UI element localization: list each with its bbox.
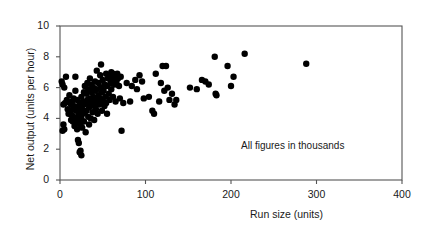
data-point <box>241 51 247 57</box>
data-point <box>116 83 122 89</box>
data-point <box>146 94 152 100</box>
data-point <box>166 97 172 103</box>
data-point <box>153 71 159 77</box>
data-point <box>194 86 200 92</box>
data-point <box>165 84 171 90</box>
data-point <box>156 98 162 104</box>
data-point <box>163 63 169 69</box>
y-axis-tick-marks <box>56 26 60 180</box>
data-point <box>98 61 104 67</box>
data-point <box>78 152 84 158</box>
data-point <box>212 54 218 60</box>
data-point <box>72 74 78 80</box>
y-axis-label: Net output (units per hour) <box>24 24 36 194</box>
data-point <box>169 91 175 97</box>
data-point <box>206 81 212 87</box>
x-axis-label: Run size (units) <box>250 208 323 220</box>
data-point <box>61 84 67 90</box>
data-point <box>187 84 193 90</box>
chart-annotation: All figures in thousands <box>241 140 344 151</box>
data-point <box>82 129 88 135</box>
x-axis-tick-marks <box>60 180 402 184</box>
data-point <box>230 74 236 80</box>
scatter-chart-figure: 0246810 0100200300400 Net output (units … <box>0 0 426 233</box>
data-point <box>173 97 179 103</box>
data-point <box>158 80 164 86</box>
data-point <box>118 74 124 80</box>
data-point <box>86 121 92 127</box>
data-point <box>91 117 97 123</box>
data-point <box>76 140 82 146</box>
data-point <box>63 74 69 80</box>
data-point <box>104 111 110 117</box>
data-point <box>120 100 126 106</box>
data-point <box>139 78 145 84</box>
x-tick-label: 200 <box>214 188 248 200</box>
data-point <box>213 92 219 98</box>
x-tick-label: 400 <box>385 188 419 200</box>
data-point <box>228 83 234 89</box>
data-point <box>303 61 309 67</box>
data-point <box>59 128 65 134</box>
data-point <box>136 72 142 78</box>
data-point <box>118 128 124 134</box>
data-point <box>224 63 230 69</box>
data-point <box>127 98 133 104</box>
plot-frame <box>60 26 402 180</box>
x-tick-label: 300 <box>300 188 334 200</box>
plot-frame-rect <box>60 26 402 180</box>
data-point <box>151 111 157 117</box>
x-tick-label: 100 <box>129 188 163 200</box>
data-point <box>72 87 78 93</box>
x-tick-label: 0 <box>43 188 77 200</box>
data-point <box>134 86 140 92</box>
